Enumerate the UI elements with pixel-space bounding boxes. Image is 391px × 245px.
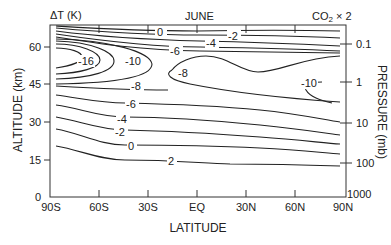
svg-text:EQ: EQ: [189, 201, 205, 213]
corner-label: ΔT (K): [50, 9, 82, 21]
contour-label-m2-low: -2: [115, 126, 125, 138]
svg-text:1: 1: [356, 76, 362, 88]
contour-m8-left-under: [56, 86, 168, 90]
svg-text:90N: 90N: [333, 201, 353, 213]
y-axis-title: ALTITUDE (km): [11, 68, 25, 152]
svg-text:0.1: 0.1: [356, 38, 371, 50]
svg-text:15: 15: [29, 154, 41, 166]
contour-m8-mid: [172, 56, 340, 72]
svg-text:10: 10: [356, 117, 368, 129]
svg-text:100: 100: [356, 157, 374, 169]
contour-label-m6-top: -6: [170, 45, 180, 57]
svg-text:60S: 60S: [89, 201, 109, 213]
contour-label-m2-top: -2: [228, 30, 238, 42]
svg-text:30N: 30N: [236, 201, 256, 213]
svg-text:30: 30: [29, 116, 41, 128]
svg-text:60: 60: [29, 41, 41, 53]
contour-label-m10-right: -10: [301, 77, 317, 89]
svg-text:60N: 60N: [285, 201, 305, 213]
svg-text:45: 45: [29, 78, 41, 90]
contour-label-0-top: 0: [157, 26, 163, 38]
contour-m2-low: [56, 117, 340, 144]
contour-label-0-low: 0: [128, 140, 134, 152]
contour-label-m8-mid: -8: [178, 67, 188, 79]
y-ticks: [44, 47, 50, 160]
contour-label-m4-low: -4: [117, 113, 127, 125]
contour-label-m10-left: -10: [125, 55, 141, 67]
svg-text:90S: 90S: [41, 201, 61, 213]
contour-label-m4-top: -4: [206, 37, 216, 49]
contour-m4-low: [56, 105, 340, 135]
x-tick-labels: 90S 60S 30S EQ 30N 60N 90N: [41, 201, 353, 213]
svg-text:0: 0: [35, 191, 41, 203]
contour-label-m16: -16: [78, 55, 94, 67]
y2-axis-title: PRESSURE (mb): [375, 65, 389, 159]
contour-2-low: [56, 146, 340, 166]
y-tick-labels: 0 15 30 45 60: [29, 41, 41, 203]
contour-label-m8-left: -8: [131, 80, 141, 92]
y2-tick-labels: 0.1 1 10 100 1000: [347, 38, 374, 200]
contour-label-2-low: 2: [168, 155, 174, 167]
x-axis-title: LATITUDE: [169, 221, 226, 235]
x-ticks: [99, 190, 295, 197]
svg-text:30S: 30S: [138, 201, 158, 213]
svg-text:1000: 1000: [347, 188, 371, 200]
contour-lines: [56, 26, 340, 166]
contour-label-m6-low: -6: [126, 98, 136, 110]
chart-title: JUNE: [185, 10, 214, 22]
scenario-label: CO2 × 2: [312, 10, 352, 24]
contour-chart: 0 -2 -4 -6 -16 -10 -8 -8 -10 -6 -4 -2 0 …: [0, 0, 391, 245]
top-ticks: [99, 25, 295, 33]
